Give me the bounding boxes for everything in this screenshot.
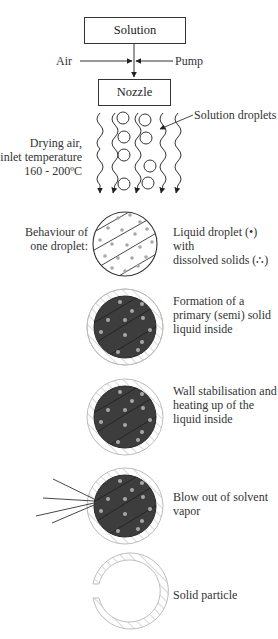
stage-1-liquid-droplet (80, 200, 180, 298)
stage-4-caption: Blow out of solvent vapor (173, 490, 268, 518)
solution-droplets-label: Solution droplets (194, 108, 276, 122)
drying-air-label: Drying air, inlet temperature 160 - 200º… (0, 136, 82, 178)
droplets-pointer (160, 115, 193, 129)
air-label: Air (56, 54, 72, 68)
vapor-jets (36, 479, 94, 523)
solution-box: Solution (84, 17, 186, 44)
stage-2-caption: Formation of a primary (semi) solid liqu… (173, 294, 271, 336)
stage-5-caption: Solid particle (173, 588, 237, 602)
stage-3-caption: Wall stabilisation and heating up of the… (173, 384, 277, 426)
stage-4-blow-out (36, 468, 170, 544)
stage-1-caption: Liquid droplet (•) with dissolved solids… (173, 225, 278, 267)
feed-arrows (80, 43, 173, 77)
behaviour-heading: Behaviour of one droplet: (0, 225, 88, 253)
stage-2-primary-solid (87, 289, 170, 365)
solution-label: Solution (114, 23, 156, 38)
nozzle-box: Nozzle (98, 79, 171, 106)
pump-label: Pump (175, 54, 203, 68)
nozzle-label: Nozzle (117, 85, 152, 100)
stage-5-solid-particle (93, 553, 168, 629)
stage-3-wall-stabilisation (87, 379, 170, 455)
